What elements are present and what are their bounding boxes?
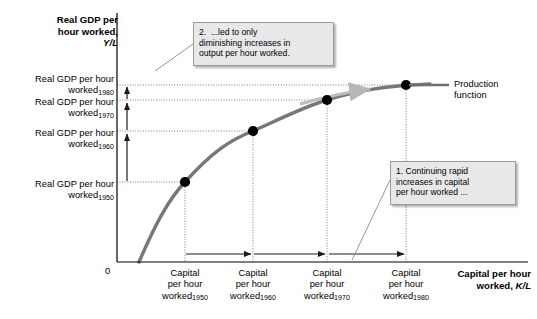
x-axis-title: Capital per hour worked, K/L (443, 268, 531, 291)
x-tick-1960-line2: per hour (213, 279, 293, 290)
horizontal-gridlines (117, 85, 406, 182)
y-axis-title-line3: Y/L (40, 37, 118, 49)
production-function-label-line2: function (454, 90, 498, 101)
y-tick-1960-line2: worked1960 (8, 139, 114, 151)
y-tick-1950-sub: 1950 (98, 194, 114, 202)
y-axis-title-line1: Real GDP per (40, 14, 118, 26)
x-tick-label-1980: Capital per hour worked1980 (366, 268, 446, 303)
x-tick-1960-line1: Capital (213, 268, 293, 279)
callout-capital-line3: per hour worked ... (396, 187, 509, 198)
callout-capital-line1: 1. Continuing rapid (396, 166, 509, 177)
x-tick-1970-sub: 1970 (334, 294, 350, 302)
callout-diminishing-line3: output per hour worked. (199, 48, 327, 59)
y-tick-1970-line2: worked1970 (8, 108, 114, 120)
x-tick-1970-line2: per hour (287, 279, 367, 290)
production-function-curve (139, 84, 430, 262)
x-tick-1980-line2: per hour (366, 279, 446, 290)
callout-leader-lines (155, 44, 390, 260)
y-tick-label-1980: Real GDP per hour worked1980 (8, 74, 114, 98)
y-tick-1950-line2: worked1950 (8, 190, 114, 202)
leader-line-capital (352, 180, 390, 260)
curve-direction-arrow (300, 89, 370, 104)
y-tick-1950-line1: Real GDP per hour (8, 179, 114, 190)
x-axis-title-line2: worked, K/L (443, 280, 531, 292)
y-tick-1960-line1: Real GDP per hour (8, 128, 114, 139)
x-tick-1950-sub: 1950 (192, 294, 208, 302)
y-tick-label-1950: Real GDP per hour worked1950 (8, 179, 114, 203)
x-tick-1980-sub: 1980 (413, 294, 429, 302)
callout-diminishing-line2: diminishing increases in (199, 38, 327, 49)
y-axis-title-line2: hour worked, (40, 26, 118, 38)
data-points (180, 80, 411, 187)
x-tick-1980-line1: Capital (366, 268, 446, 279)
x-tick-1970-line1: Capital (287, 268, 367, 279)
origin-label: 0 (105, 266, 110, 276)
y-tick-1980-line2: worked1980 (8, 85, 114, 97)
y-tick-1980-sub: 1980 (98, 89, 114, 97)
x-tick-1980-line3: worked1980 (366, 291, 446, 303)
y-tick-1970-sub: 1970 (98, 112, 114, 120)
production-function-label: Production function (454, 79, 498, 101)
production-function-label-line1: Production (454, 79, 498, 90)
y-tick-1960-sub: 1960 (98, 143, 114, 151)
y-tick-1980-line1: Real GDP per hour (8, 74, 114, 85)
callout-capital-increases: 1. Continuing rapid increases in capital… (390, 161, 516, 205)
data-point-1960 (248, 126, 258, 136)
x-tick-1960-sub: 1960 (260, 294, 276, 302)
x-tick-1970-line3: worked1970 (287, 291, 367, 303)
production-function-chart: Real GDP per hour worked, Y/L Real GDP p… (0, 0, 537, 319)
callout-diminishing-line1: 2. ...led to only (199, 27, 327, 38)
callout-capital-line2: increases in capital (396, 177, 509, 188)
data-point-1950 (180, 177, 190, 187)
x-axis-title-line1: Capital per hour (443, 268, 531, 280)
y-axis-title: Real GDP per hour worked, Y/L (40, 14, 118, 49)
x-axis-title-italic: K/L (516, 280, 531, 291)
x-tick-1960-line3: worked1960 (213, 291, 293, 303)
y-tick-1970-line1: Real GDP per hour (8, 97, 114, 108)
data-point-1970 (322, 95, 332, 105)
leader-line-diminishing (155, 44, 193, 71)
callout-diminishing-increases: 2. ...led to only diminishing increases … (193, 22, 334, 66)
y-tick-label-1960: Real GDP per hour worked1960 (8, 128, 114, 152)
x-tick-label-1970: Capital per hour worked1970 (287, 268, 367, 303)
x-tick-label-1960: Capital per hour worked1960 (213, 268, 293, 303)
y-tick-label-1970: Real GDP per hour worked1970 (8, 97, 114, 121)
